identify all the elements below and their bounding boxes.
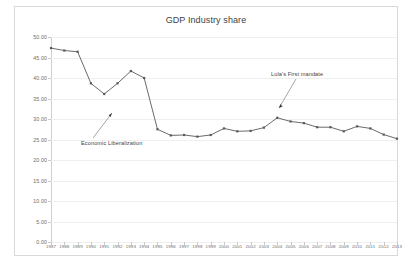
x-axis-tick-mark <box>304 242 305 245</box>
data-point <box>356 125 358 127</box>
y-axis-tick-label: 25.00 <box>33 137 47 143</box>
data-point <box>329 126 331 128</box>
data-point <box>289 120 291 122</box>
data-point <box>183 134 185 136</box>
x-axis-tick-mark <box>277 242 278 245</box>
data-point <box>170 134 172 136</box>
y-axis-tick-label: 30.00 <box>33 116 47 122</box>
series-line <box>51 48 397 139</box>
x-axis-tick-mark <box>51 242 52 245</box>
y-axis-tick-label: 40.00 <box>33 75 47 81</box>
data-point <box>343 130 345 132</box>
x-axis-tick-mark <box>330 242 331 245</box>
data-point <box>276 117 278 119</box>
x-axis-tick-mark <box>157 242 158 245</box>
data-point <box>396 138 398 140</box>
x-axis-tick-mark <box>344 242 345 245</box>
data-point <box>383 133 385 135</box>
x-axis-tick-mark <box>237 242 238 245</box>
x-axis-tick-mark <box>171 242 172 245</box>
x-axis-tick-mark <box>104 242 105 245</box>
x-axis-tick-mark <box>197 242 198 245</box>
x-axis-tick-mark <box>384 242 385 245</box>
x-axis-tick-mark <box>224 242 225 245</box>
x-axis-tick-mark <box>370 242 371 245</box>
x-axis-tick-mark <box>78 242 79 245</box>
y-axis-tick-label: 50.00 <box>33 34 47 40</box>
data-point <box>63 49 65 51</box>
data-point <box>103 93 105 95</box>
x-axis-tick-mark <box>144 242 145 245</box>
annotation-economic-liberalization: Economic Liberalization <box>81 140 142 146</box>
y-axis-tick-label: 45.00 <box>33 55 47 61</box>
x-axis-tick-mark <box>91 242 92 245</box>
data-point <box>90 82 92 84</box>
y-axis-tick-label: 10.00 <box>33 198 47 204</box>
data-point <box>236 130 238 132</box>
chart-title: GDP Industry share <box>15 15 397 25</box>
data-point <box>223 127 225 129</box>
x-axis-tick-mark <box>357 242 358 245</box>
x-axis-tick-mark <box>291 242 292 245</box>
data-point <box>77 51 79 53</box>
x-axis-tick-mark <box>118 242 119 245</box>
data-point <box>303 122 305 124</box>
x-axis-tick-mark <box>264 242 265 245</box>
x-axis-tick-mark <box>317 242 318 245</box>
x-axis-tick-mark <box>251 242 252 245</box>
y-axis-tick-label: 20.00 <box>33 157 47 163</box>
data-point <box>316 126 318 128</box>
data-point <box>263 127 265 129</box>
x-axis-tick-mark <box>184 242 185 245</box>
y-axis-tick-label: 5.00 <box>36 219 47 225</box>
annotation-lula-first-mandate: Lula's First mandate <box>271 71 323 77</box>
chart-frame: GDP Industry share 0.005.0010.0015.0020.… <box>14 6 398 256</box>
data-point <box>156 128 158 130</box>
data-point <box>210 134 212 136</box>
data-point <box>143 77 145 79</box>
data-point <box>50 47 52 49</box>
data-point <box>250 130 252 132</box>
data-point <box>196 136 198 138</box>
data-point <box>369 127 371 129</box>
x-axis-tick-mark <box>131 242 132 245</box>
y-axis-tick-label: 15.00 <box>33 178 47 184</box>
x-axis-tick-mark <box>64 242 65 245</box>
y-axis-tick-label: 35.00 <box>33 96 47 102</box>
data-point <box>116 82 118 84</box>
data-point <box>130 70 132 72</box>
x-axis-tick-mark <box>397 242 398 245</box>
x-axis-tick-mark <box>211 242 212 245</box>
